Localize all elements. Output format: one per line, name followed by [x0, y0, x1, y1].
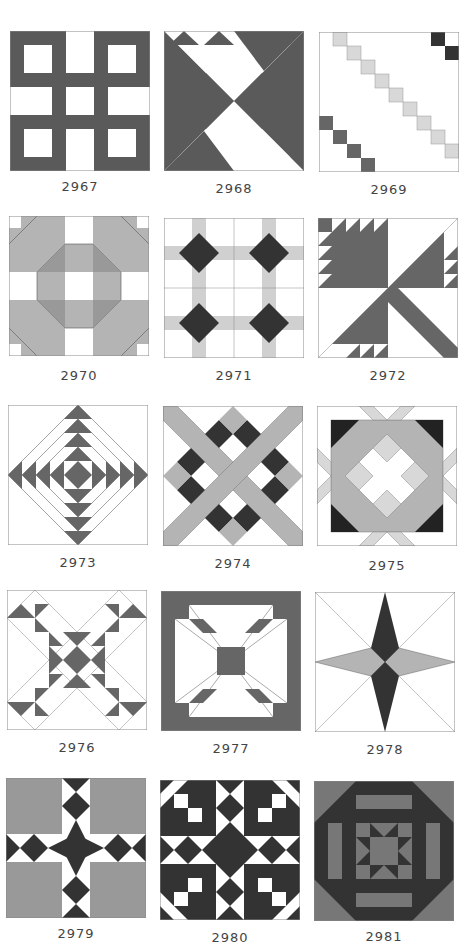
quilt-block-2981: 2981 — [314, 781, 454, 921]
quilt-block-2971: 2971 — [164, 218, 304, 358]
block-image-2981 — [314, 781, 454, 921]
block-number-label: 2968 — [164, 181, 304, 196]
block-number-label: 2967 — [10, 179, 150, 194]
block-number-label: 2973 — [8, 555, 148, 570]
block-image-2971 — [164, 218, 304, 358]
block-number-label: 2969 — [319, 182, 459, 197]
block-image-2974 — [163, 406, 303, 546]
block-number-label: 2977 — [161, 741, 301, 756]
quilt-block-2970: 2970 — [9, 216, 149, 356]
block-number-label: 2978 — [315, 742, 455, 757]
block-number-label: 2976 — [7, 740, 147, 755]
quilt-block-2975: 2975 — [317, 406, 457, 546]
block-number-label: 2974 — [163, 556, 303, 571]
block-image-2980 — [160, 780, 300, 920]
block-image-2979 — [6, 778, 146, 918]
block-number-label: 2972 — [318, 368, 458, 383]
quilt-block-2979: 2979 — [6, 778, 146, 918]
block-image-2976 — [7, 590, 147, 730]
quilt-block-2967: 2967 — [10, 31, 150, 171]
quilt-block-2976: 2976 — [7, 590, 147, 730]
quilt-block-2972: 2972 — [318, 218, 458, 358]
block-image-2967 — [10, 31, 150, 171]
quilt-block-2977: 2977 — [161, 591, 301, 731]
block-image-2970 — [9, 216, 149, 356]
block-number-label: 2971 — [164, 368, 304, 383]
block-image-2968 — [164, 31, 304, 171]
quilt-block-2969: 2969 — [319, 32, 459, 172]
block-image-2972 — [318, 218, 458, 358]
block-image-2969 — [319, 32, 459, 172]
quilt-block-2968: 2968 — [164, 31, 304, 171]
block-image-2973 — [8, 405, 148, 545]
block-image-2978 — [315, 592, 455, 732]
block-image-2977 — [161, 591, 301, 731]
quilt-block-2974: 2974 — [163, 406, 303, 546]
quilt-block-2973: 2973 — [8, 405, 148, 545]
block-number-label: 2975 — [317, 558, 457, 573]
quilt-block-2978: 2978 — [315, 592, 455, 732]
block-number-label: 2980 — [160, 930, 300, 944]
block-number-label: 2979 — [6, 926, 146, 941]
quilt-block-2980: 2980 — [160, 780, 300, 920]
block-image-2975 — [317, 406, 457, 546]
block-number-label: 2970 — [9, 368, 149, 383]
block-number-label: 2981 — [314, 929, 454, 944]
